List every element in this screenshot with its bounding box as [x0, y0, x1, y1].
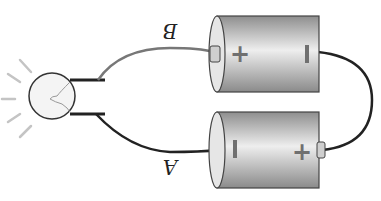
label-wire-b: B: [163, 19, 179, 43]
label-wire-a: A: [163, 155, 179, 179]
battery-top: +: [209, 16, 319, 92]
battery-top-positive: +: [230, 40, 250, 68]
wire-a: [96, 114, 219, 152]
wire-b: [98, 48, 213, 80]
light-rays-icon: [2, 60, 31, 137]
light-bulb: [29, 73, 105, 119]
battery-top-negative: [305, 45, 309, 63]
battery-bottom-positive: +: [292, 138, 312, 166]
battery-bottom-negative: [233, 140, 237, 158]
battery-bottom: +: [209, 112, 325, 188]
wire-connector: [318, 52, 372, 150]
circuit-diagram: + + B A: [0, 0, 381, 201]
circuit-svg: + + B A: [0, 0, 381, 201]
